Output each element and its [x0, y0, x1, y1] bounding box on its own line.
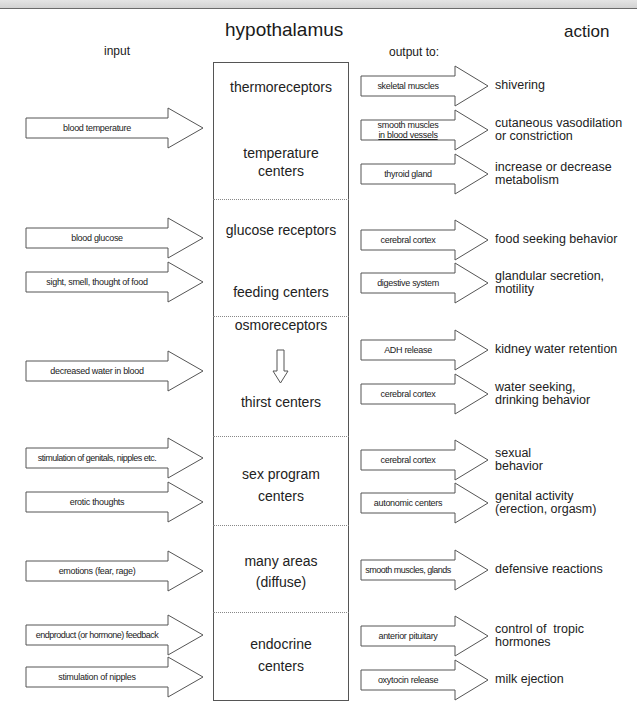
action-milk-ejection: milk ejection: [495, 673, 564, 686]
action-glandular-secretion: glandular secretion, motility: [495, 270, 604, 296]
output-label-anterior-pituitary: anterior pituitary: [361, 631, 455, 641]
output-label-digestive-system: digestive system: [361, 278, 455, 288]
output-label-cerebral-cortex-water: cerebral cortex: [361, 389, 455, 399]
output-label-oxytocin-release: oxytocin release: [361, 675, 455, 685]
arrow-layer: [0, 0, 637, 718]
action-line: defensive reactions: [495, 563, 603, 576]
input-label-stimulation-nipples: stimulation of nipples: [26, 672, 168, 682]
action-defensive-reactions: defensive reactions: [495, 563, 603, 576]
output-label-thyroid-gland: thyroid gland: [361, 169, 455, 179]
action-line: hormones: [495, 636, 584, 649]
input-label-endproduct-feedback: endproduct (or hormone) feedback: [26, 630, 168, 640]
output-label-adh-release: ADH release: [361, 345, 455, 355]
output-label-line: in blood vessels: [361, 130, 455, 140]
output-label-cerebral-cortex-sex: cerebral cortex: [361, 455, 455, 465]
output-label-smooth-muscles-vessels: smooth muscles in blood vessels: [361, 120, 455, 140]
action-kidney-water-retention: kidney water retention: [495, 343, 617, 356]
action-line: milk ejection: [495, 673, 564, 686]
input-label-emotions: emotions (fear, rage): [26, 566, 168, 576]
action-line: shivering: [495, 79, 545, 92]
input-label-sight-smell: sight, smell, thought of food: [26, 277, 168, 287]
action-shivering: shivering: [495, 79, 545, 92]
output-label-cerebral-cortex-food: cerebral cortex: [361, 235, 455, 245]
down-arrow-icon: [273, 350, 288, 383]
output-label-smooth-muscles-glands: smooth muscles, glands: [361, 565, 455, 575]
action-cutaneous-vasodilation: cutaneous vasodilation or constriction: [495, 117, 622, 143]
action-water-seeking: water seeking, drinking behavior: [495, 381, 590, 407]
action-line: motility: [495, 283, 604, 296]
output-label-autonomic-centers: autonomic centers: [361, 498, 455, 508]
action-metabolism: increase or decrease metabolism: [495, 161, 612, 187]
input-label-blood-glucose: blood glucose: [26, 233, 168, 243]
output-label-line: smooth muscles: [361, 120, 455, 130]
action-line: behavior: [495, 460, 543, 473]
action-line: drinking behavior: [495, 394, 590, 407]
input-label-erotic-thoughts: erotic thoughts: [26, 497, 168, 507]
action-food-seeking: food seeking behavior: [495, 233, 617, 246]
action-line: metabolism: [495, 174, 612, 187]
action-tropic-hormones: control of tropic hormones: [495, 623, 584, 649]
input-label-stimulation-genitals: stimulation of genitals, nipples etc.: [26, 453, 168, 463]
output-label-skeletal-muscles: skeletal muscles: [361, 81, 455, 91]
input-label-blood-temperature: blood temperature: [26, 123, 168, 133]
action-line: (erection, orgasm): [495, 503, 596, 516]
action-line: kidney water retention: [495, 343, 617, 356]
action-sexual-behavior: sexual behavior: [495, 447, 543, 473]
input-label-decreased-water: decreased water in blood: [26, 366, 168, 376]
action-line: or constriction: [495, 130, 622, 143]
action-genital-activity: genital activity (erection, orgasm): [495, 490, 596, 516]
action-line: food seeking behavior: [495, 233, 617, 246]
